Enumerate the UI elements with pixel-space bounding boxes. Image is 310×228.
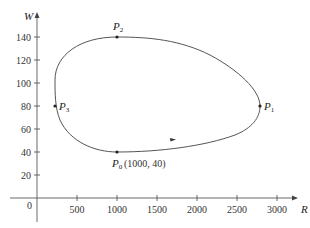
p0-label: P0 xyxy=(111,157,123,171)
direction-arrow-icon xyxy=(170,138,176,142)
x-axis-arrow-icon xyxy=(292,196,298,201)
point-p2 xyxy=(115,35,118,38)
y-axis-label: W xyxy=(24,10,34,22)
trajectory-curve xyxy=(55,37,260,152)
x-tick-label: 1500 xyxy=(147,204,167,215)
p0-coords: (1000, 40) xyxy=(124,158,166,170)
p3-label: P3 xyxy=(58,100,70,114)
y-tick-label: 40 xyxy=(21,147,31,158)
y-ticks: 20406080100120140 xyxy=(16,32,40,181)
x-tick-label: 3000 xyxy=(267,204,287,215)
x-tick-label: 2500 xyxy=(227,204,247,215)
point-p1 xyxy=(258,104,261,107)
y-tick-label: 60 xyxy=(21,124,31,135)
p1-label: P1 xyxy=(263,100,275,114)
y-tick-label: 80 xyxy=(21,101,31,112)
x-tick-label: 2000 xyxy=(187,204,207,215)
phase-plot: 50010001500200025003000 2040608010012014… xyxy=(0,0,310,228)
p2-label: P2 xyxy=(112,20,124,34)
point-p0 xyxy=(115,150,118,153)
y-tick-label: 120 xyxy=(16,55,31,66)
point-p3 xyxy=(53,104,56,107)
y-tick-label: 140 xyxy=(16,32,31,43)
origin-label: 0 xyxy=(27,200,32,211)
y-axis-arrow-icon xyxy=(35,12,40,18)
y-tick-label: 100 xyxy=(16,78,31,89)
x-tick-label: 1000 xyxy=(107,204,127,215)
x-tick-label: 500 xyxy=(70,204,85,215)
y-tick-label: 20 xyxy=(21,170,31,181)
x-axis-label: R xyxy=(300,203,308,215)
axes xyxy=(10,12,298,222)
